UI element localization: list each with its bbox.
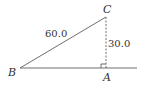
hypotenuse-bc [20,17,106,68]
height-length-label: 30.0 [108,38,130,49]
right-angle-marker [101,64,106,68]
vertex-label-c: C [103,3,112,16]
vertex-label-a: A [102,71,111,84]
vertex-label-b: B [7,66,16,79]
hypotenuse-length-label: 60.0 [45,28,67,39]
triangle-diagram: C B A 60.0 30.0 [0,0,151,89]
